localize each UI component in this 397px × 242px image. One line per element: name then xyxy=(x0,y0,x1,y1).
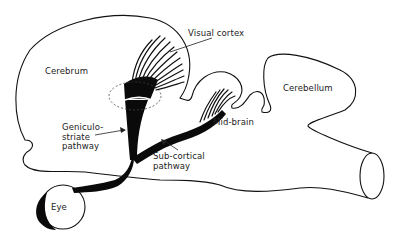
label-eye: Eye xyxy=(51,203,67,213)
label-visual-cortex: Visual cortex xyxy=(188,29,244,39)
geniculo-striate-arrowhead xyxy=(120,127,126,133)
label-cerebrum: Cerebrum xyxy=(45,67,88,77)
label-geniculo-striate: Geniculo- striate pathway xyxy=(62,123,103,152)
label-cerebellum: Cerebellum xyxy=(283,84,333,94)
optic-nerve xyxy=(72,158,134,193)
visual-cortex-leader xyxy=(170,38,212,52)
label-sub-cortical: Sub-cortical pathway xyxy=(153,152,205,171)
label-mid-brain: Mid-brain xyxy=(213,118,254,128)
spinal-cord-end xyxy=(360,153,384,199)
